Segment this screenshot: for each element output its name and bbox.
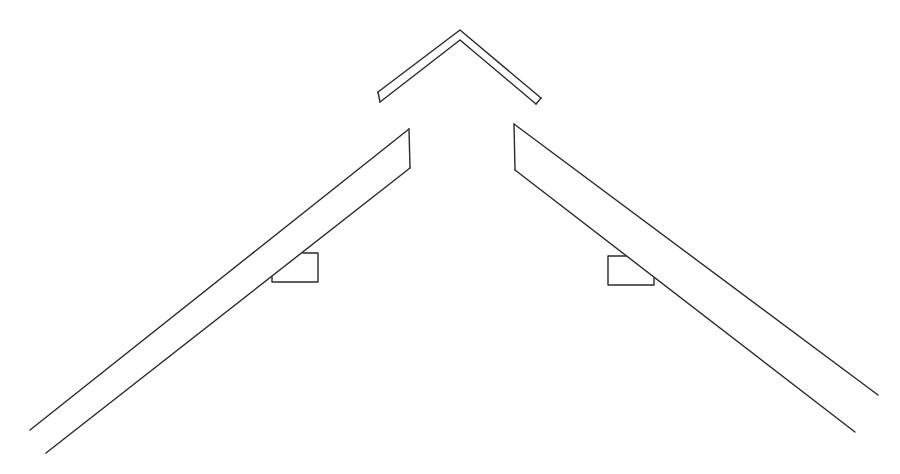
right-block (608, 256, 654, 285)
ridge-cap-right-end (536, 98, 541, 104)
roof-diagram (0, 0, 900, 474)
right-rafter-lower-edge (515, 170, 855, 432)
right-rafter-top-cut (514, 124, 515, 170)
left-rafter-upper-edge (30, 129, 409, 430)
left-rafter-top-cut (409, 129, 410, 168)
ridge-cap-left-end (378, 92, 380, 102)
left-rafter-lower-edge (46, 168, 410, 453)
right-rafter-upper-edge (514, 124, 878, 395)
